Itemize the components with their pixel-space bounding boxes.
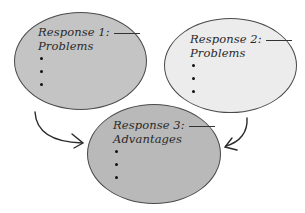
connector-arrows bbox=[0, 0, 305, 213]
arrow-response-1-to-3 bbox=[35, 112, 82, 143]
arrowhead-1-icon bbox=[72, 134, 83, 148]
